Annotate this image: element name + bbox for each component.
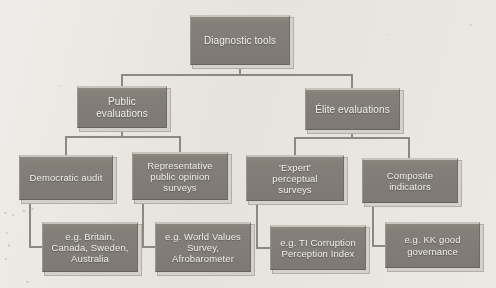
node-representative-surveys[interactable]: Representative public opinion surveys	[132, 152, 228, 200]
connector-root-to-elite	[351, 74, 353, 88]
connector-composite-elbow	[372, 245, 386, 247]
node-public-evaluations[interactable]: Public evaluations	[77, 86, 167, 128]
connector-elite-bus	[294, 137, 410, 139]
connector-democratic-drop	[29, 200, 31, 247]
node-label-democratic-audit: Democratic audit	[30, 172, 103, 183]
connector-public-to-representative	[179, 136, 181, 152]
node-elite-evaluations[interactable]: Élite evaluations	[305, 88, 400, 130]
connector-elite-to-expert	[294, 137, 296, 155]
node-label-example-wvs-line2: Survey,	[165, 242, 241, 253]
node-example-kk-good-governance[interactable]: e.g. KK good governance	[385, 222, 480, 268]
connector-composite-drop	[372, 203, 374, 247]
node-label-example-britain-line2: Canada, Sweden,	[51, 242, 128, 253]
connector-representative-drop	[142, 200, 144, 247]
node-label-public-evaluations-line2: evaluations	[96, 108, 148, 120]
node-label-expert-line2: perceptual	[272, 173, 317, 184]
node-label-public-evaluations-line1: Public	[96, 96, 148, 108]
node-label-representative-line2: public opinion	[147, 171, 212, 182]
node-label-example-kk-line1: e.g. KK good	[404, 234, 460, 245]
node-example-ti-corruption-index[interactable]: e.g. TI Corruption Perception Index	[270, 225, 366, 270]
node-expert-perceptual-surveys[interactable]: 'Expert' perceptual surveys	[246, 155, 344, 201]
connector-democratic-elbow	[29, 246, 43, 248]
node-democratic-audit[interactable]: Democratic audit	[19, 155, 113, 200]
connector-root-to-public	[121, 74, 123, 86]
node-example-public-opinion-surveys[interactable]: e.g. World Values Survey, Afrobarometer	[155, 222, 251, 272]
node-label-example-ti-line2: Perception Index	[280, 248, 356, 259]
connector-representative-elbow	[142, 246, 156, 248]
node-label-expert-line1: 'Expert'	[272, 162, 317, 173]
node-diagnostic-tools[interactable]: Diagnostic tools	[190, 15, 290, 65]
node-label-example-wvs-line3: Afrobarometer	[165, 253, 241, 264]
connector-root-bus	[121, 74, 353, 76]
node-label-composite-line1: Composite	[387, 170, 433, 181]
node-label-composite-line2: indicators	[387, 181, 433, 192]
node-label-example-wvs-line1: e.g. World Values	[165, 231, 241, 242]
connector-expert-elbow	[256, 247, 271, 249]
node-label-example-britain-line1: e.g. Britain,	[51, 231, 128, 242]
node-label-representative-line1: Representative	[147, 160, 212, 171]
node-label-expert-line3: surveys	[272, 184, 317, 195]
connector-elite-to-composite	[408, 137, 410, 158]
connector-public-bus	[65, 136, 181, 138]
node-label-diagnostic-tools: Diagnostic tools	[204, 35, 276, 47]
connector-public-to-democratic	[65, 136, 67, 155]
node-example-democratic-audit[interactable]: e.g. Britain, Canada, Sweden, Australia	[42, 222, 138, 272]
node-label-example-kk-line2: governance	[404, 246, 460, 257]
node-label-elite-evaluations: Élite evaluations	[315, 104, 390, 116]
connector-expert-drop	[256, 201, 258, 248]
node-label-example-britain-line3: Australia	[51, 253, 128, 264]
node-label-example-ti-line1: e.g. TI Corruption	[280, 237, 356, 248]
node-composite-indicators[interactable]: Composite indicators	[362, 158, 458, 203]
diagram-canvas: Diagnostic tools Public evaluations Élit…	[0, 0, 496, 288]
node-label-representative-line3: surveys	[147, 182, 212, 193]
